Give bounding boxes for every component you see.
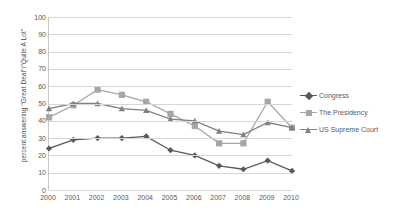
legend-item-label: US Supreme Court — [319, 126, 378, 133]
y-axis-tick-0: 0 — [24, 187, 46, 194]
y-axis-tick-20: 20 — [24, 152, 46, 159]
data-point — [216, 140, 222, 146]
data-point — [240, 140, 246, 146]
data-point — [216, 163, 222, 169]
data-point — [95, 87, 101, 93]
x-axis-tick-2010: 2010 — [274, 194, 308, 201]
legend-item-label: The Presidency — [319, 109, 368, 116]
chart-container: percent answering "Great Deal"/"Quite A … — [0, 0, 397, 223]
legend-item-the-presidency[interactable]: The Presidency — [300, 105, 397, 120]
gridline-60 — [49, 86, 292, 87]
series-line — [49, 136, 292, 171]
gridline-30 — [49, 138, 292, 139]
y-axis-tick-80: 80 — [24, 48, 46, 55]
y-axis-tick-60: 60 — [24, 83, 46, 90]
gridline-100 — [49, 17, 292, 18]
legend-item-label: Congress — [319, 92, 349, 99]
gridline-10 — [49, 173, 292, 174]
y-axis-tick-30: 30 — [24, 135, 46, 142]
gridline-50 — [49, 104, 292, 105]
gridline-0 — [49, 190, 292, 191]
data-point — [46, 145, 52, 151]
data-point — [119, 92, 125, 98]
legend-swatch-icon — [300, 91, 317, 100]
plot-area — [48, 17, 291, 190]
gridline-90 — [49, 34, 292, 35]
gridline-80 — [49, 52, 292, 53]
chart-legend: CongressThe PresidencyUS Supreme Court — [300, 88, 397, 139]
y-axis-tick-10: 10 — [24, 169, 46, 176]
legend-swatch-icon — [300, 125, 317, 134]
y-axis-tick-70: 70 — [24, 65, 46, 72]
y-axis-tick-40: 40 — [24, 117, 46, 124]
y-axis-tick-90: 90 — [24, 31, 46, 38]
gridline-40 — [49, 121, 292, 122]
legend-item-congress[interactable]: Congress — [300, 88, 397, 103]
y-axis-tick-labels: 0102030405060708090100 — [22, 0, 46, 223]
legend-item-us-supreme-court[interactable]: US Supreme Court — [300, 122, 397, 137]
data-point — [192, 123, 198, 129]
y-axis-tick-100: 100 — [24, 14, 46, 21]
series-congress — [46, 133, 295, 174]
data-point — [265, 157, 271, 163]
data-point — [167, 147, 173, 153]
legend-swatch-icon — [300, 108, 317, 117]
x-axis-tick-labels: 2000200120022003200420052006200720082009… — [48, 194, 291, 208]
y-axis-tick-50: 50 — [24, 100, 46, 107]
gridline-20 — [49, 155, 292, 156]
data-point — [46, 114, 52, 120]
data-point — [240, 166, 246, 172]
gridline-70 — [49, 69, 292, 70]
